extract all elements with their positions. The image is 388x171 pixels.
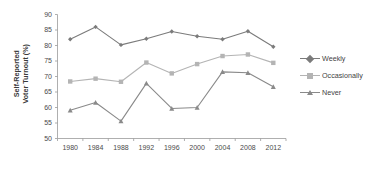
- data-point-marker: [68, 79, 72, 83]
- voter-turnout-line-chart: Self-Reported Voter Turnout (%) 90858075…: [0, 0, 388, 171]
- legend-item-never[interactable]: Never: [300, 84, 386, 101]
- legend-marker-triangle-icon: [300, 88, 320, 97]
- data-point-marker: [144, 60, 148, 64]
- data-point-marker: [170, 71, 174, 75]
- data-point-marker: [68, 37, 72, 41]
- legend-label-never: Never: [320, 88, 341, 97]
- legend-marker-diamond-icon: [300, 54, 320, 63]
- data-point-marker: [119, 80, 123, 84]
- legend-marker-square-icon: [300, 71, 320, 80]
- legend-label-weekly: Weekly: [320, 54, 345, 63]
- data-point-marker: [195, 34, 199, 38]
- data-point-marker: [144, 81, 149, 86]
- chart-legend: Weekly Occasionally Never: [300, 50, 386, 101]
- data-point-marker: [170, 29, 174, 33]
- legend-item-occasionally[interactable]: Occasionally: [300, 67, 386, 84]
- data-point-marker: [220, 37, 224, 41]
- data-point-marker: [220, 54, 224, 58]
- legend-label-occasionally: Occasionally: [320, 71, 363, 80]
- data-point-marker: [246, 52, 250, 56]
- legend-item-weekly[interactable]: Weekly: [300, 50, 386, 67]
- data-point-marker: [271, 84, 276, 89]
- data-point-marker: [271, 61, 275, 65]
- data-point-marker: [144, 36, 148, 40]
- data-point-marker: [93, 100, 98, 105]
- data-point-marker: [195, 62, 199, 66]
- data-point-marker: [93, 76, 97, 80]
